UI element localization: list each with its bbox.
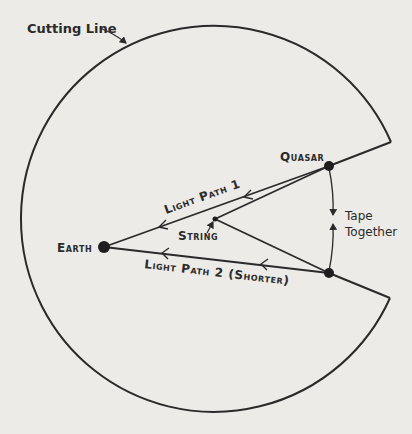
- earth-dot: [98, 241, 110, 253]
- light-path-2-label: Light Path 2 (Shorter): [144, 257, 291, 288]
- quasar-image-dot: [324, 268, 334, 278]
- quasar-dot: [324, 161, 334, 171]
- light-path-2-arrow-a: [261, 259, 268, 270]
- wedge-edge-lower: [329, 273, 390, 298]
- cutting-line-circle: [21, 26, 391, 412]
- cutting-line-label: Cutting Line: [27, 21, 117, 36]
- string-to-image-line: [215, 219, 329, 273]
- tape-label-line1: Tape: [344, 209, 373, 223]
- wedge-edge-upper: [329, 142, 391, 166]
- string-dot: [213, 217, 218, 222]
- diagram-canvas: Cutting Line Quasar Earth String Light P…: [0, 0, 412, 434]
- tape-label-line2: Together: [344, 225, 397, 239]
- cosmic-string-diagram: Cutting Line Quasar Earth String Light P…: [0, 0, 412, 434]
- tape-arrow-down: [329, 168, 333, 215]
- tape-arrow-up: [329, 224, 333, 271]
- earth-label: Earth: [57, 241, 92, 255]
- quasar-label: Quasar: [280, 150, 324, 164]
- string-label: String: [178, 229, 218, 243]
